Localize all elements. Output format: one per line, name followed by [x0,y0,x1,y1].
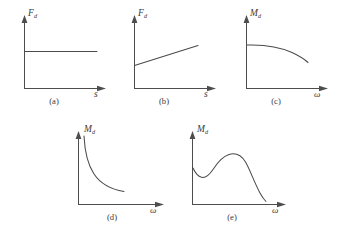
y-axis-label-c-base: M [250,8,258,18]
panel-caption-a: (a) [34,97,74,106]
y-axis-label-b-sub: d [144,12,147,19]
panel-caption-d: (d) [92,213,132,222]
y-axis-label-d: Md [84,125,95,135]
x-axis-label-b-base: s [204,89,208,99]
x-axis-label-c: ω [314,90,320,99]
y-axis-label-e-sub: d [205,128,208,135]
y-axis-arrowhead-e [190,131,196,139]
y-axis-arrowhead-d [76,131,82,139]
chart-panel-a-svg [18,12,114,94]
y-axis-label-c-sub: d [258,12,261,19]
data-curve-b [135,46,199,66]
chart-panel-d: Md ω [72,128,172,210]
chart-panel-b: Fd s [128,12,224,94]
x-axis-label-d: ω [150,206,156,215]
y-axis-arrowhead-a [22,15,28,23]
x-axis-arrowhead-b [207,86,216,92]
x-axis-label-d-base: ω [150,205,156,215]
x-axis-label-a: s [94,90,98,100]
y-axis-label-d-sub: d [92,128,95,135]
y-axis-label-c: Md [250,9,261,19]
x-axis-label-b: s [204,90,208,100]
y-axis-label-d-base: M [84,124,92,134]
y-axis-label-a-base: F [28,8,34,18]
chart-panel-d-svg [72,128,172,210]
panel-caption-c: (c) [256,97,296,106]
data-curve-c [247,45,308,63]
x-axis-label-c-base: ω [314,89,320,99]
y-axis-label-a: Fd [28,9,37,19]
x-axis-label-e-base: ω [272,205,278,215]
y-axis-label-b: Fd [138,9,147,19]
y-axis-label-e-base: M [197,124,205,134]
chart-panel-c: Md ω [240,12,336,94]
panel-caption-b: (b) [144,97,184,106]
x-axis-label-e: ω [272,206,278,215]
chart-panel-e-svg [186,128,292,210]
y-axis-arrowhead-b [132,15,138,23]
y-axis-label-e: Md [197,125,208,135]
chart-panel-a: Fd s [18,12,114,94]
y-axis-arrowhead-c [244,15,250,23]
chart-panel-e: Md ω [186,128,292,210]
y-axis-label-b-base: F [138,8,144,18]
x-axis-arrowhead-a [97,86,106,92]
x-axis-label-a-base: s [94,89,98,99]
chart-panel-c-svg [240,12,336,94]
panel-caption-e: (e) [212,213,252,222]
chart-panel-b-svg [128,12,224,94]
data-curve-e [193,154,266,202]
y-axis-label-a-sub: d [34,12,37,19]
data-curve-d [84,136,124,192]
figure-sheet: Fd s (a) Fd s (b) Md [0,0,342,235]
